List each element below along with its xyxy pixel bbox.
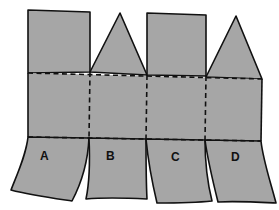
label-a: A <box>40 149 49 163</box>
label-c: C <box>171 150 180 164</box>
top-flap-square-1 <box>28 10 90 73</box>
bottom-flap-a <box>11 137 89 201</box>
bottom-flap-d <box>205 140 276 203</box>
paper-net-diagram: A B C D <box>0 0 279 210</box>
middle-band <box>28 73 262 141</box>
bottom-flap-c <box>146 139 212 203</box>
label-d: D <box>231 150 240 164</box>
label-b: B <box>106 149 115 163</box>
top-flap-square-3 <box>147 13 206 76</box>
net-body <box>11 10 276 203</box>
top-flap-triangle-4 <box>206 16 262 79</box>
bottom-flap-b <box>86 138 147 199</box>
top-flap-triangle-2 <box>90 13 147 75</box>
middle-band-right-edge <box>261 79 262 141</box>
